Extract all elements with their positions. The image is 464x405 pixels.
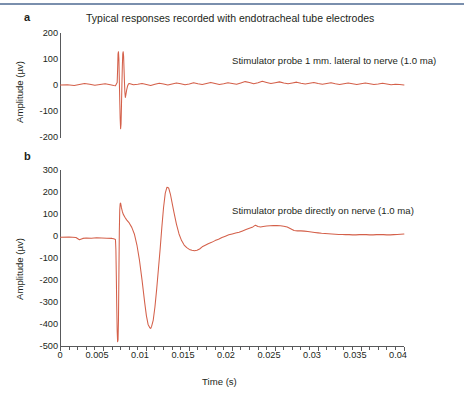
panel-b-xtick-4: 0.02 [206, 350, 246, 360]
panel-a-ytick-2: 0 [26, 80, 58, 90]
panel-b-ytick-5: -200 [26, 275, 58, 285]
panel-b-ytick-1: 200 [26, 187, 58, 197]
panel-b-xtick-0: 0 [44, 350, 76, 360]
panel-a-ytick-3: -100 [26, 106, 58, 116]
panel-b-ylabel: Amplitude (µv) [14, 238, 25, 300]
panel-b-xtick-7: 0.035 [335, 350, 375, 360]
figure-title: Typical responses recorded with endotrac… [86, 12, 374, 24]
panel-b-ytick-7: -400 [26, 319, 58, 329]
panel-label-a: a [24, 11, 30, 23]
panel-a-ytick-4: -200 [26, 132, 58, 142]
panel-b-xtick-8: 0.04 [378, 350, 418, 360]
panel-b-xtick-5: 0.025 [249, 350, 289, 360]
panel-b-ytick-2: 100 [26, 209, 58, 219]
panel-b-trace [61, 187, 405, 341]
figure-container: a Typical responses recorded with endotr… [0, 0, 464, 405]
panel-b-xtick-3: 0.015 [163, 350, 203, 360]
panel-b-ytick-3: 0 [26, 231, 58, 241]
panel-a-ytick-0: 200 [26, 28, 58, 38]
panel-b-ytick-6: -300 [26, 297, 58, 307]
panel-b-xtick-6: 0.03 [292, 350, 332, 360]
panel-b-xtick-1: 0.005 [77, 350, 117, 360]
header-rule [0, 3, 464, 5]
panel-b-xlabel: Time (s) [202, 376, 237, 387]
panel-b-ytick-0: 300 [26, 165, 58, 175]
panel-a-trace [61, 52, 405, 129]
panel-b-ytick-4: -100 [26, 253, 58, 263]
panel-label-b: b [24, 150, 31, 162]
panel-a-plot [60, 28, 464, 158]
panel-a-ytick-1: 100 [26, 54, 58, 64]
panel-b-xtick-2: 0.01 [120, 350, 160, 360]
panel-b-plot [60, 165, 464, 375]
panel-a-ylabel: Amplitude (µv) [14, 61, 25, 123]
